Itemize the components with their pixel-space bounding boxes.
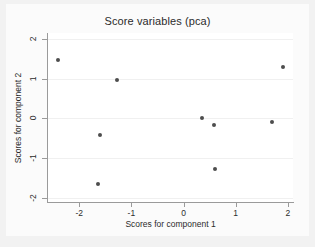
x-axis-tick-label: -2 — [66, 208, 92, 218]
x-axis-title: Scores for component 1 — [48, 219, 293, 229]
y-axis-tick-label: 2 — [26, 33, 40, 45]
x-axis-tick-label: 2 — [275, 208, 301, 218]
y-axis-tick-label-text: 0 — [28, 116, 38, 121]
y-axis-tick — [42, 158, 47, 159]
x-axis-tick — [184, 203, 185, 207]
y-axis-tick-label: 0 — [26, 112, 40, 124]
x-axis-tick-label: -1 — [118, 208, 144, 218]
chart-canvas: Score variables (pca) Scores for compone… — [6, 4, 309, 236]
y-axis-tick-label-text: -1 — [28, 154, 38, 162]
y-gridline — [48, 118, 293, 119]
scatter-point — [56, 58, 60, 62]
scatter-point — [212, 123, 216, 127]
scatter-point — [213, 167, 217, 171]
plot-area — [48, 33, 293, 202]
y-axis-tick-label: 1 — [26, 73, 40, 85]
y-axis-tick-label: -1 — [26, 152, 40, 164]
y-axis-title-text: Scores for component 2 — [13, 72, 23, 162]
scatter-point — [98, 133, 102, 137]
y-axis-line — [47, 33, 48, 203]
y-axis-tick — [42, 118, 47, 119]
y-axis-tick — [42, 198, 47, 199]
y-axis-tick-label-text: 1 — [28, 76, 38, 81]
chart-figure: Score variables (pca) Scores for compone… — [0, 0, 315, 247]
x-axis-tick — [288, 203, 289, 207]
y-gridline — [48, 198, 293, 199]
x-axis-tick — [79, 203, 80, 207]
y-axis-tick — [42, 39, 47, 40]
y-gridline — [48, 79, 293, 80]
x-axis-tick-label: 1 — [223, 208, 249, 218]
y-axis-tick — [42, 79, 47, 80]
y-gridline — [48, 158, 293, 159]
scatter-point — [281, 65, 285, 69]
x-axis-tick-label: 0 — [171, 208, 197, 218]
y-gridline — [48, 39, 293, 40]
x-axis-tick — [236, 203, 237, 207]
chart-title: Score variables (pca) — [6, 15, 309, 27]
scatter-point — [270, 120, 274, 124]
y-axis-tick-label-text: -2 — [28, 194, 38, 202]
y-axis-tick-label-text: 2 — [28, 37, 38, 42]
scatter-point — [200, 116, 204, 120]
scatter-point — [96, 182, 100, 186]
y-axis-title: Scores for component 2 — [11, 33, 25, 202]
scatter-point — [115, 78, 119, 82]
y-axis-tick-label: -2 — [26, 192, 40, 204]
x-axis-tick — [131, 203, 132, 207]
x-axis-line — [47, 202, 294, 203]
